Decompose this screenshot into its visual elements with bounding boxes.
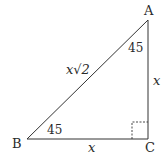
vertex-label-b: B: [12, 136, 22, 151]
angle-label-a: 45: [128, 41, 143, 55]
vertex-label-a: A: [143, 3, 154, 18]
side-ab: [27, 20, 148, 139]
triangle-diagram: A B C 45 45 x√2 x x: [0, 0, 168, 164]
side-label-bc: x: [88, 140, 96, 155]
angle-label-b: 45: [47, 123, 62, 137]
side-label-ac: x: [153, 73, 161, 88]
right-angle-marker: [132, 122, 148, 139]
side-label-ab: x√2: [66, 62, 90, 77]
vertex-label-c: C: [145, 140, 155, 155]
